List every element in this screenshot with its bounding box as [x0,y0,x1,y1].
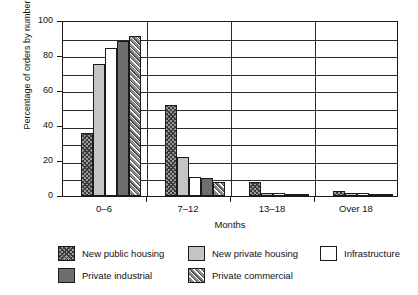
y-axis-label-80: 80 [19,51,53,60]
bar-chart-figure: Percentage of orders by number 100 80 60… [0,0,418,295]
group-separator-3 [315,22,316,196]
group-separator-2 [231,22,232,196]
y-axis-label-60: 60 [19,86,53,95]
x-axis-title: Months [62,219,398,230]
bar-0-6-private-industrial [117,41,129,196]
y-axis-label-100: 100 [19,16,53,25]
y-axis-label-20: 20 [19,156,53,165]
legend-swatch-private-commercial [188,268,205,283]
bar-7-12-new-public-housing [165,105,177,197]
chart-legend: New public housing New private housing I… [58,246,408,290]
legend-swatch-infrastructure [320,246,337,261]
bar-over-18-infrastructure [357,193,369,197]
legend-swatch-new-private-housing [188,246,205,261]
legend-swatch-private-industrial [58,268,75,283]
bar-13-18-private-commercial [297,194,309,196]
x-axis-label-13-18: 13–18 [230,203,314,214]
bar-13-18-infrastructure [273,193,285,197]
x-axis-label-0-6: 0–6 [62,203,146,214]
bar-over-18-new-private-housing [345,193,357,197]
bar-7-12-infrastructure [189,177,201,196]
legend-label-new-public-housing: New public housing [82,248,164,259]
x-axis-tick-3 [314,197,315,202]
bar-0-6-private-commercial [129,36,141,196]
x-axis-tick-1 [146,197,147,202]
x-axis-label-7-12: 7–12 [146,203,230,214]
legend-label-private-industrial: Private industrial [82,270,152,281]
gridline-90 [63,40,397,41]
bar-7-12-private-industrial [201,178,213,196]
bar-7-12-private-commercial [213,182,225,196]
bar-over-18-new-public-housing [333,191,345,196]
bar-7-12-new-private-housing [177,157,189,196]
bar-over-18-private-industrial [369,194,381,196]
bar-13-18-new-private-housing [261,193,273,197]
group-separator-1 [147,22,148,196]
x-axis-label-over-18: Over 18 [314,203,398,214]
bar-13-18-private-industrial [285,194,297,196]
bar-13-18-new-public-housing [249,182,261,196]
bar-over-18-private-commercial [381,194,393,196]
legend-label-infrastructure: Infrastructure [344,248,400,259]
bar-0-6-new-private-housing [93,64,105,196]
bar-0-6-infrastructure [105,48,117,196]
y-axis-label-40: 40 [19,121,53,130]
legend-label-new-private-housing: New private housing [212,248,298,259]
legend-swatch-new-public-housing [58,246,75,261]
x-axis-tick-2 [230,197,231,202]
legend-label-private-commercial: Private commercial [212,270,293,281]
bar-0-6-new-public-housing [81,133,93,196]
plot-area [62,21,398,197]
y-axis-label-0: 0 [19,191,53,200]
